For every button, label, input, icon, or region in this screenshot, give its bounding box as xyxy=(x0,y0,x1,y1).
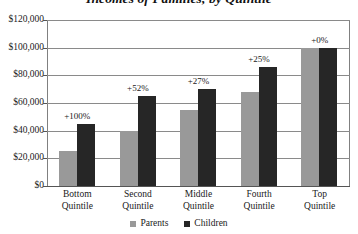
y-axis-tick-label: $20,000 xyxy=(0,153,44,163)
bar-children xyxy=(259,67,277,186)
bar-group: +100% xyxy=(47,20,108,186)
bar-parents xyxy=(180,110,198,186)
x-axis-label-line: Quintile xyxy=(108,201,169,213)
x-axis: BottomQuintileSecondQuintileMiddleQuinti… xyxy=(47,189,350,219)
bar-parents xyxy=(120,131,138,186)
y-axis-tick-label: $80,000 xyxy=(0,70,44,80)
x-axis-category-label: TopQuintile xyxy=(289,189,350,212)
x-axis-label-line: Bottom xyxy=(47,189,108,201)
bar-parents xyxy=(59,151,77,186)
x-axis-label-line: Quintile xyxy=(47,201,108,213)
x-axis-label-line: Top xyxy=(289,189,350,201)
x-axis-label-line: Second xyxy=(108,189,169,201)
legend-label: Children xyxy=(194,219,227,229)
legend-item[interactable]: Parents xyxy=(130,219,168,229)
y-axis-tick-label: $60,000 xyxy=(0,98,44,108)
x-axis-category-label: FourthQuintile xyxy=(229,189,290,212)
y-axis-tick-label: $0 xyxy=(0,181,44,191)
bar-children xyxy=(319,48,337,186)
x-axis-label-line: Fourth xyxy=(229,189,290,201)
bar-annotation: +27% xyxy=(168,77,229,86)
y-axis-tick-mark xyxy=(43,131,47,132)
y-axis-tick-mark xyxy=(43,48,47,49)
y-axis-tick-mark xyxy=(43,75,47,76)
bar-annotation: +25% xyxy=(229,55,290,64)
x-axis-label-line: Quintile xyxy=(289,201,350,213)
legend-item[interactable]: Children xyxy=(184,219,227,229)
y-axis-tick-mark xyxy=(43,158,47,159)
bar-children xyxy=(198,89,216,186)
y-axis-tick-label: $40,000 xyxy=(0,126,44,136)
bar-annotation: +52% xyxy=(108,84,169,93)
x-axis-label-line: Middle xyxy=(168,189,229,201)
y-axis-tick-mark xyxy=(43,20,47,21)
bar-group: +52% xyxy=(108,20,169,186)
bar-children xyxy=(138,96,156,186)
bar-chart: Incomes of Families, by Quintile +100%+5… xyxy=(0,0,358,234)
y-axis-tick-mark xyxy=(43,103,47,104)
x-axis-category-label: SecondQuintile xyxy=(108,189,169,212)
chart-legend: ParentsChildren xyxy=(0,219,358,229)
y-axis-tick-label: $100,000 xyxy=(0,43,44,53)
bar-annotation: +0% xyxy=(289,36,350,45)
y-axis-tick-label: $120,000 xyxy=(0,15,44,25)
bar-group: +27% xyxy=(168,20,229,186)
bar-parents xyxy=(301,48,319,186)
x-axis-category-label: MiddleQuintile xyxy=(168,189,229,212)
bar-annotation: +100% xyxy=(47,112,108,121)
bar-parents xyxy=(241,92,259,186)
bar-children xyxy=(77,124,95,186)
x-axis-label-line: Quintile xyxy=(229,201,290,213)
gridline xyxy=(47,186,350,187)
x-axis-label-line: Quintile xyxy=(168,201,229,213)
y-axis-tick-mark xyxy=(43,186,47,187)
bar-group: +0% xyxy=(289,20,350,186)
legend-swatch-icon xyxy=(184,221,190,227)
bar-groups: +100%+52%+27%+25%+0% xyxy=(47,20,350,186)
legend-swatch-icon xyxy=(130,221,136,227)
plot-area: +100%+52%+27%+25%+0% xyxy=(47,20,350,186)
x-axis-category-label: BottomQuintile xyxy=(47,189,108,212)
bar-group: +25% xyxy=(229,20,290,186)
legend-label: Parents xyxy=(140,219,168,229)
chart-title: Incomes of Families, by Quintile xyxy=(0,0,358,7)
